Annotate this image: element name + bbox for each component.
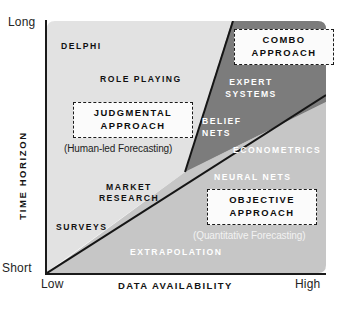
caption-objective: (Quantitative Forecasting) xyxy=(193,230,305,241)
callout-combo-line1: COMBO xyxy=(242,34,326,47)
x-axis-line xyxy=(45,273,326,275)
label-extrapolation: EXTRAPOLATION xyxy=(130,247,222,258)
y-axis-title: TIME HORIZON xyxy=(17,128,28,224)
label-expert: EXPERT xyxy=(215,77,287,88)
callout-judgmental-approach: JUDGMENTAL APPROACH xyxy=(73,102,193,138)
y-axis-tick-short: Short xyxy=(2,261,32,275)
label-role-playing: ROLE PLAYING xyxy=(100,74,182,85)
label-belief: BELIEF xyxy=(202,116,242,127)
label-systems: SYSTEMS xyxy=(215,89,287,100)
x-axis-tick-low: Low xyxy=(41,277,64,291)
caption-judgmental: (Human-led Forecasting) xyxy=(64,143,172,154)
label-research: RESEARCH xyxy=(87,193,171,204)
callout-combo-approach: COMBO APPROACH xyxy=(234,29,334,65)
label-surveys: SURVEYS xyxy=(56,222,107,233)
label-nets: NETS xyxy=(202,128,231,139)
x-axis-title: DATA AVAILABILITY xyxy=(118,280,233,291)
callout-objective-line2: APPROACH xyxy=(215,207,309,220)
callout-combo-line2: APPROACH xyxy=(242,47,326,60)
callout-objective-approach: OBJECTIVE APPROACH xyxy=(207,189,317,225)
forecasting-methods-diagram: Long Short Low High DATA AVAILABILITY TI… xyxy=(0,0,343,310)
label-econometrics: ECONOMETRICS xyxy=(233,145,321,156)
plot-area: DELPHI ROLE PLAYING MARKET RESEARCH SURV… xyxy=(47,21,326,273)
label-neural-nets: NEURAL NETS xyxy=(214,172,291,183)
x-axis-tick-high: High xyxy=(295,277,320,291)
y-axis-tick-long: Long xyxy=(8,15,36,29)
callout-objective-line1: OBJECTIVE xyxy=(215,194,309,207)
label-delphi: DELPHI xyxy=(61,41,102,52)
callout-judgmental-line1: JUDGMENTAL xyxy=(81,107,185,120)
label-market: MARKET xyxy=(87,182,171,193)
callout-judgmental-line2: APPROACH xyxy=(81,120,185,133)
